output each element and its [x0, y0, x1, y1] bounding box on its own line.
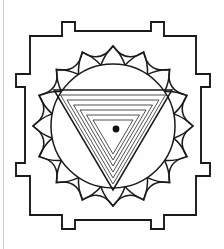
yantra-drawing — [0, 0, 224, 249]
lotus-petal — [78, 52, 100, 74]
nested-triangles-group — [54, 90, 172, 190]
lotus-petal — [39, 91, 61, 113]
lotus-petal — [78, 178, 100, 200]
lotus-petal — [125, 178, 147, 200]
inner-circle — [51, 64, 175, 188]
lotus-petal — [39, 138, 61, 160]
lotus-petal — [33, 114, 52, 138]
lotus-petal — [174, 114, 193, 138]
bhupura-outer-square — [16, 22, 210, 229]
lotus-petal — [165, 138, 187, 160]
lotus-petal — [147, 69, 169, 91]
lotus-petal — [125, 52, 147, 74]
lotus-petal — [56, 69, 78, 91]
sixteen-petal-lotus — [33, 46, 193, 206]
lotus-petal — [56, 160, 78, 182]
triangle-2 — [61, 95, 166, 184]
lotus-petal — [101, 46, 125, 65]
center-bindu-dot — [113, 126, 120, 133]
yantra-figure-container — [0, 0, 224, 249]
lotus-petal — [147, 160, 169, 182]
lotus-petal — [165, 91, 187, 113]
